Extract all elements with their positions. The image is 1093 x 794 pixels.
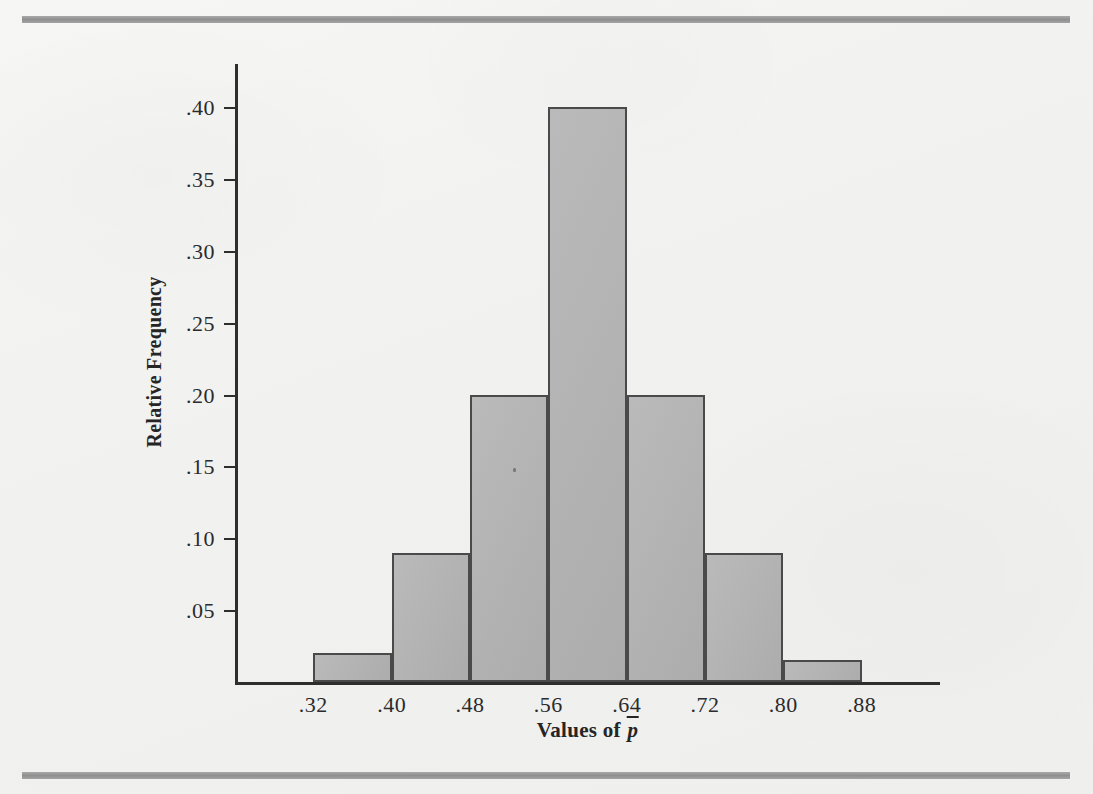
y-axis-title: Relative Frequency <box>143 276 166 447</box>
x-tick-label: .32 <box>299 692 328 718</box>
x-tick-label: .72 <box>691 692 720 718</box>
histogram-bar <box>548 107 626 682</box>
x-tick-label: .48 <box>456 692 485 718</box>
y-tick-label: .30 <box>186 239 215 265</box>
histogram-bar <box>705 553 783 682</box>
x-axis-title-prefix: Values of <box>537 718 621 742</box>
histogram-bar <box>470 395 548 682</box>
histogram-bar <box>313 653 391 682</box>
x-tick-label: .40 <box>377 692 406 718</box>
x-tick-label: .88 <box>847 692 876 718</box>
bottom-rule <box>22 772 1070 779</box>
x-tick-label: .56 <box>534 692 563 718</box>
y-tick-label: .20 <box>186 383 215 409</box>
top-rule <box>22 16 1070 23</box>
y-tick-label: .05 <box>186 598 215 624</box>
x-tick-label: .80 <box>769 692 798 718</box>
bar-series <box>235 64 940 684</box>
plot-area: .05.10.15.20.25.30.35.40 .32.40.48.56.64… <box>235 64 940 684</box>
x-tick-label: .64 <box>612 692 641 718</box>
histogram-figure: Relative Frequency .05.10.15.20.25.30.35… <box>0 24 1093 770</box>
p-bar-symbol: p <box>626 718 639 742</box>
scan-speck <box>513 468 516 472</box>
y-tick-label: .15 <box>186 454 215 480</box>
histogram-bar <box>783 660 861 682</box>
y-tick-label: .10 <box>186 526 215 552</box>
histogram-bar <box>627 395 705 682</box>
histogram-bar <box>392 553 470 682</box>
y-tick-label: .35 <box>186 167 215 193</box>
x-axis-title: Values of p <box>537 718 640 743</box>
y-tick-label: .25 <box>186 311 215 337</box>
y-tick-label: .40 <box>186 95 215 121</box>
